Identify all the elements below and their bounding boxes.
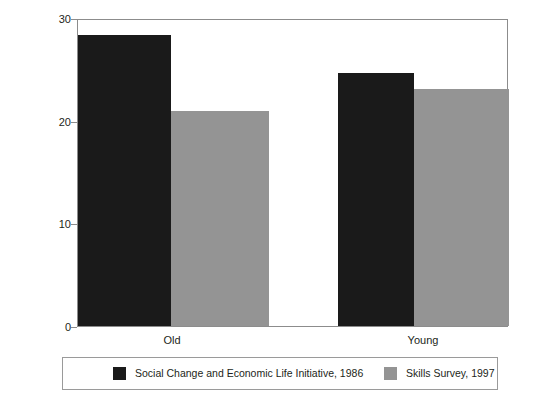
bar-young-skills-1997 [414, 89, 509, 326]
y-tick-mark-0 [71, 327, 77, 328]
legend-label-sceli-1986: Social Change and Economic Life Initiati… [135, 367, 363, 380]
legend-swatch-light-icon [384, 367, 397, 380]
bar-old-skills-1997 [171, 111, 269, 326]
y-axis-title: % of workers [12, 0, 31, 38]
bar-chart-figure: % of workers 30 20 10 0 Old Young Social… [0, 0, 560, 404]
y-tick-label-0: 0 [30, 320, 71, 334]
y-tick-label-20: 20 [30, 115, 71, 129]
plot-area [77, 19, 508, 327]
y-tick-label-10: 10 [30, 217, 71, 231]
bar-young-sceli-1986 [338, 73, 414, 326]
legend-entry-skills-1997: Skills Survey, 1997 [384, 358, 495, 389]
legend-entry-sceli-1986: Social Change and Economic Life Initiati… [113, 358, 363, 389]
legend-label-skills-1997: Skills Survey, 1997 [406, 367, 495, 380]
legend-swatch-dark-icon [113, 367, 126, 380]
x-tick-label-young: Young [373, 332, 473, 348]
bar-old-sceli-1986 [78, 35, 171, 326]
chart-legend: Social Change and Economic Life Initiati… [62, 357, 498, 390]
y-tick-label-30: 30 [30, 12, 71, 26]
x-tick-label-old: Old [122, 332, 222, 348]
